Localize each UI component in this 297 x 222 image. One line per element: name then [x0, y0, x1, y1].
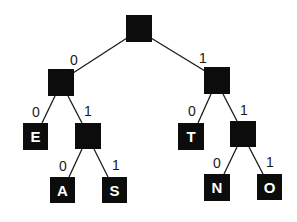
- internal-node-n0: [48, 69, 74, 96]
- internal-node-n11: [230, 121, 256, 147]
- edge-label: 1: [112, 158, 120, 172]
- edge-root-n1: [151, 38, 205, 71]
- edge-label: 1: [240, 103, 248, 117]
- leaf-node-e: E: [23, 123, 48, 150]
- edge-label: 0: [188, 104, 196, 118]
- internal-node-root: [126, 15, 152, 42]
- edge-n0-n01: [68, 96, 82, 123]
- edge-label: 0: [59, 159, 67, 173]
- edge-n01-leaf-a: [69, 149, 82, 177]
- edge-root-n0: [73, 38, 127, 73]
- edge-n1-leaf-t: [198, 94, 211, 123]
- edge-n1-n11: [223, 94, 237, 121]
- edge-n11-leaf-n: [224, 147, 237, 174]
- edge-n11-leaf-o: [249, 147, 263, 174]
- edge-label: 1: [84, 104, 92, 118]
- edge-n0-leaf-e: [42, 96, 55, 123]
- edge-label: 0: [70, 53, 78, 67]
- internal-node-n01: [75, 123, 101, 149]
- edge-label: 0: [213, 156, 221, 170]
- leaf-node-n: N: [204, 174, 230, 201]
- edge-label: 0: [32, 105, 40, 119]
- internal-node-n1: [204, 67, 230, 94]
- edge-label: 1: [199, 51, 207, 65]
- leaf-node-a: A: [50, 177, 75, 203]
- leaf-node-o: O: [257, 174, 282, 200]
- edge-label: 1: [266, 155, 274, 169]
- binary-code-tree: 0101010101EASTNO: [0, 0, 297, 222]
- leaf-node-t: T: [178, 123, 204, 150]
- edge-n01-leaf-s: [94, 149, 108, 177]
- leaf-node-s: S: [102, 177, 127, 203]
